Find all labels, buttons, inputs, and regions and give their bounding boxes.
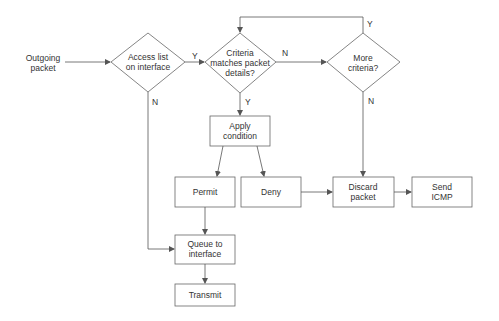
edge-label-criteria-no: N (282, 48, 288, 58)
process-apply-condition-label: Apply condition (223, 121, 257, 141)
edge-label-access-no: N (152, 97, 158, 107)
edge-apply-deny (257, 146, 264, 176)
edge-access-queue (148, 92, 174, 249)
process-queue-label: Queue to interface (188, 239, 223, 259)
start-label: Outgoing packet (26, 53, 61, 73)
decision-more-criteria-label: More criteria? (348, 53, 378, 73)
process-send-icmp-label: Send ICMP (431, 182, 452, 202)
edge-label-criteria-yes: Y (245, 97, 251, 107)
process-transmit-label: Transmit (189, 290, 222, 300)
edge-label-more-yes: Y (367, 19, 373, 29)
edge-label-access-yes: Y (192, 51, 198, 61)
process-deny-label: Deny (261, 187, 281, 197)
decision-criteria-match-label: Criteria matches packet details? (210, 48, 270, 78)
process-permit-label: Permit (193, 187, 218, 197)
edge-more-criteria-loop (240, 17, 363, 33)
edge-apply-permit (217, 146, 223, 176)
edge-label-more-no: N (368, 96, 374, 106)
decision-access-list-label: Access list on interface (126, 52, 170, 72)
process-discard-packet-label: Discard packet (349, 182, 378, 202)
